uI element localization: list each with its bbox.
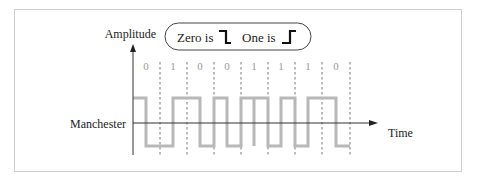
x-axis-label: Time <box>388 126 413 140</box>
bit-label: 0 <box>197 60 203 72</box>
y-axis-label: Amplitude <box>105 27 156 41</box>
bit-label: 1 <box>278 60 284 72</box>
x-axis-arrow-icon <box>369 120 378 126</box>
manchester-diagram: Zero is One is Amplitude Manchester Time… <box>0 0 478 184</box>
manchester-waveform <box>133 98 350 146</box>
bit-labels: 0 1 0 0 1 1 1 0 <box>143 60 339 72</box>
bit-label: 0 <box>333 60 339 72</box>
legend-one-label: One is <box>242 30 276 45</box>
bit-label: 1 <box>170 60 176 72</box>
y-axis-arrow-icon <box>130 44 136 52</box>
legend-pill: Zero is One is <box>165 23 311 50</box>
bit-label: 1 <box>251 60 257 72</box>
legend-zero-label: Zero is <box>177 30 213 45</box>
bit-label: 0 <box>224 60 230 72</box>
bit-label: 1 <box>305 60 311 72</box>
signal-label: Manchester <box>70 117 126 131</box>
bit-label: 0 <box>143 60 149 72</box>
